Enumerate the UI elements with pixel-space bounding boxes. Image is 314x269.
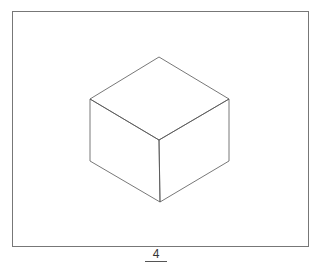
- caption: 4: [140, 244, 172, 262]
- cube-left-face: [90, 99, 160, 202]
- cube: [90, 57, 229, 202]
- cube-right-face: [159, 99, 229, 202]
- cube-diagram: [0, 0, 314, 269]
- caption-underline: [145, 261, 167, 262]
- cube-top-face: [90, 57, 229, 140]
- figure-number-label: 4: [153, 247, 160, 261]
- frame-border: [13, 12, 309, 247]
